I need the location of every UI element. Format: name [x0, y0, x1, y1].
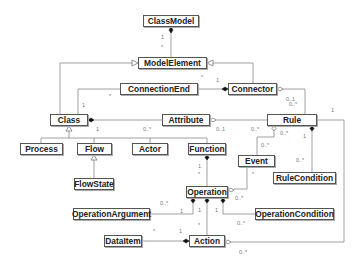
class-box-flowstate: FlowState [74, 178, 114, 190]
multiplicity-label: 1 [180, 209, 183, 215]
multiplicity-label: 1 [215, 208, 218, 214]
composition-diamond-icon [205, 198, 209, 203]
class-box-operation: Operation [186, 186, 228, 198]
class-box-rule: Rule [267, 114, 317, 126]
multiplicity-label: * [198, 223, 200, 229]
multiplicity-label: 1 [82, 103, 85, 109]
composition-diamond-icon [310, 126, 314, 131]
multiplicity-label: * [201, 75, 203, 81]
class-box-operationargument: OperationArgument [73, 208, 150, 220]
multiplicity-label: 0..1 [216, 127, 225, 133]
multiplicity-label: 0..* [296, 158, 304, 164]
multiplicity-label: * [109, 94, 111, 100]
multiplicity-label: * [252, 172, 254, 178]
aggregation-diamond-icon [228, 188, 234, 192]
multiplicity-label: 0..* [261, 143, 269, 149]
multiplicity-label: 0..* [280, 131, 288, 137]
composition-diamond-icon [191, 198, 195, 203]
class-box-action: Action [189, 235, 225, 247]
class-box-dataitem: DataItem [104, 235, 142, 247]
class-box-connectionend: ConnectionEnd [120, 83, 198, 95]
generalization-arrow-icon [207, 60, 213, 66]
multiplicity-label: 1 [96, 127, 99, 133]
multiplicity-label: 1 [198, 164, 201, 170]
connector-lines [0, 0, 359, 262]
multiplicity-label: 1 [198, 208, 201, 214]
class-box-connector: Connector [228, 83, 277, 95]
aggregation-diamond-icon [210, 118, 216, 122]
class-box-rulecondition: RuleCondition [273, 172, 336, 184]
class-box-classmodel: ClassModel [143, 15, 199, 27]
multiplicity-label: 0..* [251, 127, 259, 133]
multiplicity-label: 0..* [160, 201, 168, 207]
generalization-arrow-icon [91, 155, 97, 160]
class-box-actor: Actor [132, 143, 168, 155]
multiplicity-label: 0..* [239, 250, 247, 256]
multiplicity-label: * [153, 229, 155, 235]
uml-class-diagram: ClassModel ModelElement ConnectionEnd Co… [0, 0, 359, 262]
class-box-event: Event [238, 155, 275, 167]
composition-diamond-icon [169, 27, 173, 33]
multiplicity-label: 1 [303, 134, 306, 140]
multiplicity-label: 0..* [143, 127, 151, 133]
class-box-operationcondition: OperationCondition [255, 208, 334, 220]
class-box-class: Class [50, 114, 88, 126]
multiplicity-label: 1 [331, 108, 334, 114]
multiplicity-label: 1 [161, 35, 164, 41]
multiplicity-label: 0..* [237, 221, 245, 227]
multiplicity-label: * [161, 45, 163, 51]
aggregation-diamond-icon [225, 240, 231, 244]
composition-diamond-icon [88, 118, 94, 122]
aggregation-diamond-icon [277, 87, 283, 91]
class-box-function: Function [188, 143, 226, 155]
class-box-flow: Flow [77, 143, 112, 155]
class-box-modelelement: ModelElement [138, 57, 207, 69]
composition-diamond-icon [205, 155, 209, 160]
multiplicity-label: * [198, 172, 200, 178]
generalization-arrow-icon [66, 126, 72, 131]
multiplicity-label: 1 [216, 78, 219, 84]
aggregation-diamond-icon [272, 126, 276, 131]
multiplicity-label: 1 [179, 229, 182, 235]
class-box-attribute: Attribute [162, 114, 210, 126]
multiplicity-label: 0..* [235, 196, 243, 202]
composition-diamond-icon [221, 198, 225, 203]
multiplicity-label: 0..* [289, 102, 297, 108]
class-box-process: Process [20, 143, 63, 155]
